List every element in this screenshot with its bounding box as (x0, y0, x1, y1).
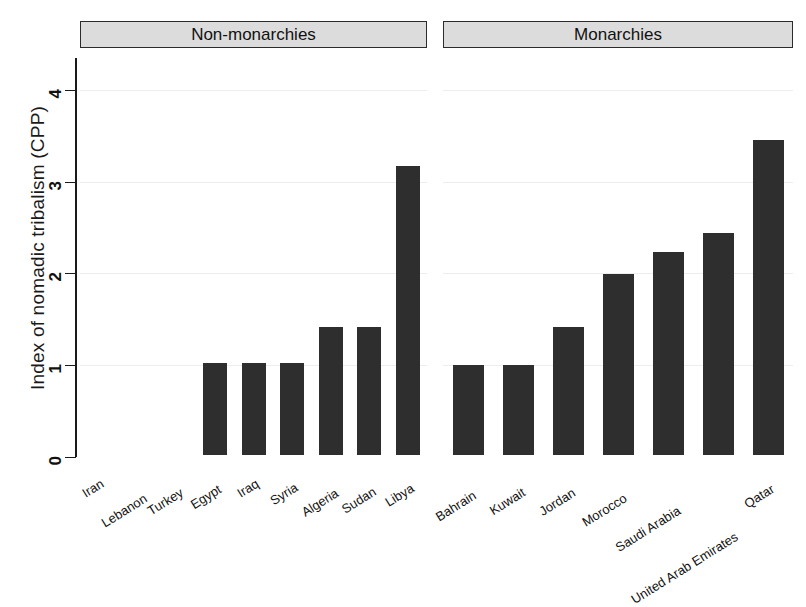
x-tick-label: United Arab Emirates (628, 529, 740, 607)
y-tick-label-1: 1 (46, 364, 66, 392)
x-tick-label: Algeria (298, 485, 340, 519)
bar-qatar (753, 140, 784, 455)
x-tick-label: Qatar (741, 481, 777, 511)
x-tick-label: Bahrain (433, 488, 479, 524)
y-tick-label-3: 3 (46, 181, 66, 209)
plot-area-monarchies (443, 58, 793, 457)
panel-header-monarchies: Monarchies (443, 21, 793, 48)
bar-morocco (603, 274, 634, 455)
x-tick-label: Turkey (145, 485, 186, 519)
x-tick-label: Kuwait (487, 485, 528, 518)
plot-panel-monarchies (443, 58, 793, 457)
bar-bahrain (453, 365, 484, 455)
y-tick-mark-1 (65, 365, 76, 366)
y-tick-mark-2 (65, 273, 76, 274)
y-axis-line (75, 58, 77, 457)
panel-header-left-label: Non-monarchies (191, 25, 316, 45)
bar-united-arab-emirates (703, 233, 734, 455)
x-tick-label: Sudan (339, 484, 379, 517)
gridline-y-4 (443, 90, 793, 91)
bar-kuwait (503, 365, 534, 455)
y-tick-label-4: 4 (46, 89, 66, 117)
bar-jordan (553, 327, 584, 455)
gridline-y-2 (80, 273, 427, 274)
plot-panel-non-monarchies (80, 58, 427, 457)
y-tick-mark-3 (65, 182, 76, 183)
gridline-y-3 (443, 182, 793, 183)
y-tick-mark-0 (65, 457, 76, 458)
x-tick-label: Saudi Arabia (613, 503, 683, 555)
plot-area-non-monarchies (80, 58, 427, 457)
bar-libya (396, 166, 420, 455)
x-tick-label: Iran (80, 476, 107, 501)
panel-header-non-monarchies: Non-monarchies (80, 21, 427, 48)
x-tick-label: Jordan (536, 485, 578, 519)
gridline-y-4 (80, 90, 427, 91)
bar-egypt (203, 363, 227, 455)
y-tick-label-0: 0 (46, 456, 66, 484)
x-tick-label: Egypt (188, 482, 224, 512)
bar-sudan (357, 327, 381, 455)
x-tick-label: Morocco (579, 490, 629, 529)
bar-syria (280, 363, 304, 455)
bar-saudi-arabia (653, 252, 684, 455)
y-tick-label-2: 2 (46, 272, 66, 300)
bar-iraq (242, 363, 266, 455)
y-tick-mark-4 (65, 90, 76, 91)
x-tick-label: Syria (267, 480, 300, 508)
x-tick-label: Lebanon (99, 491, 150, 531)
x-tick-label: Libya (382, 480, 416, 509)
x-tick-label: Iraq (234, 476, 261, 501)
gridline-y-3 (80, 182, 427, 183)
bar-algeria (319, 327, 343, 455)
panel-header-right-label: Monarchies (574, 25, 662, 45)
